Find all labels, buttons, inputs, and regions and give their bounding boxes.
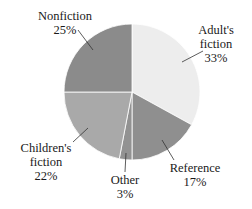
label-reference: Reference 17% [170, 161, 221, 189]
label-adults-fiction: Adult's fiction 33% [198, 23, 234, 65]
pie-slices [64, 24, 200, 160]
label-text: Reference [170, 161, 221, 175]
label-nonfiction: Nonfiction 25% [38, 9, 92, 37]
label-text: fiction [198, 37, 234, 51]
label-other: Other 3% [111, 173, 139, 201]
label-percent: 25% [38, 23, 92, 37]
label-percent: 33% [198, 51, 234, 65]
label-percent: 17% [170, 175, 221, 189]
label-text: fiction [21, 155, 72, 169]
label-percent: 3% [111, 187, 139, 201]
label-text: Adult's [198, 23, 234, 37]
label-text: Children's [21, 141, 72, 155]
label-childrens-fiction: Children's fiction 22% [21, 141, 72, 183]
label-percent: 22% [21, 169, 72, 183]
label-text: Other [111, 173, 139, 187]
label-text: Nonfiction [38, 9, 92, 23]
